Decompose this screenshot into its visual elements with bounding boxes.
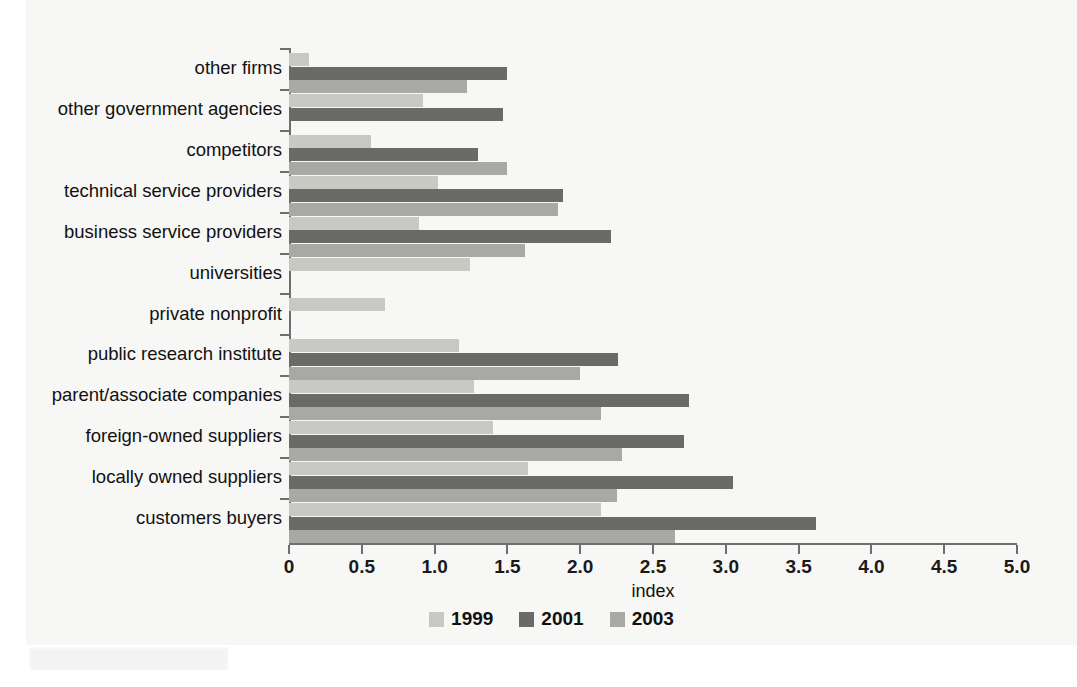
legend-item: 2003 xyxy=(610,608,674,630)
x-tick-label: 0 xyxy=(284,556,295,578)
x-tick-mark xyxy=(288,545,290,554)
legend-swatch-icon xyxy=(429,612,444,627)
bar xyxy=(289,217,419,230)
category-label: other government agencies xyxy=(58,98,282,120)
x-tick-label: 4.0 xyxy=(858,556,884,578)
x-tick-mark xyxy=(725,545,727,554)
bar xyxy=(289,53,309,66)
bar xyxy=(289,148,478,161)
x-tick-label: 2.0 xyxy=(567,556,593,578)
x-tick-mark xyxy=(434,545,436,554)
bar xyxy=(289,394,689,407)
bar xyxy=(289,67,507,80)
x-tick-mark xyxy=(506,545,508,554)
x-tick-label: 3.5 xyxy=(785,556,811,578)
scan-artifact xyxy=(30,648,360,670)
y-tick-mark xyxy=(280,334,290,336)
category-label: business service providers xyxy=(64,221,282,243)
category-label: locally owned suppliers xyxy=(92,466,282,488)
bar-chart: 00.51.01.52.02.53.03.54.04.55.0 other fi… xyxy=(26,0,1077,645)
x-tick-mark xyxy=(798,545,800,554)
legend-label: 2001 xyxy=(541,608,583,630)
bar xyxy=(289,108,503,121)
category-label: customers buyers xyxy=(136,507,282,529)
x-tick-label: 3.0 xyxy=(713,556,739,578)
bar xyxy=(289,503,601,516)
legend-swatch-icon xyxy=(519,612,534,627)
x-tick-label: 0.5 xyxy=(349,556,375,578)
legend-label: 2003 xyxy=(632,608,674,630)
y-tick-mark xyxy=(280,130,290,132)
bar xyxy=(289,421,493,434)
bar xyxy=(289,462,528,475)
x-tick-mark xyxy=(652,545,654,554)
bar xyxy=(289,94,423,107)
x-tick-mark xyxy=(870,545,872,554)
category-label: other firms xyxy=(195,57,282,79)
x-tick-label: 4.5 xyxy=(931,556,957,578)
bar xyxy=(289,135,371,148)
bar xyxy=(289,407,601,420)
bar xyxy=(289,367,580,380)
bar xyxy=(289,162,507,175)
chart-legend: 199920012003 xyxy=(26,608,1077,630)
y-tick-mark xyxy=(280,48,290,50)
bar xyxy=(289,230,611,243)
figure-panel: 00.51.01.52.02.53.03.54.04.55.0 other fi… xyxy=(26,0,1077,645)
bar xyxy=(289,435,684,448)
x-tick-label: 2.5 xyxy=(640,556,666,578)
category-label: public research institute xyxy=(88,343,282,365)
x-tick-mark xyxy=(1016,545,1018,554)
category-label: universities xyxy=(189,262,282,284)
bar xyxy=(289,530,675,543)
x-tick-label: 5.0 xyxy=(1004,556,1030,578)
bar xyxy=(289,476,733,489)
bar xyxy=(289,298,385,311)
category-label: technical service providers xyxy=(64,180,282,202)
bar xyxy=(289,380,474,393)
x-tick-label: 1.0 xyxy=(421,556,447,578)
legend-swatch-icon xyxy=(610,612,625,627)
y-tick-mark xyxy=(280,293,290,295)
legend-label: 1999 xyxy=(451,608,493,630)
x-axis-title: index xyxy=(289,581,1017,602)
bar xyxy=(289,489,617,502)
bar xyxy=(289,189,563,202)
bar xyxy=(289,176,438,189)
bar xyxy=(289,517,816,530)
bar xyxy=(289,203,558,216)
x-tick-label: 1.5 xyxy=(494,556,520,578)
legend-item: 1999 xyxy=(429,608,493,630)
bar xyxy=(289,258,470,271)
legend-item: 2001 xyxy=(519,608,583,630)
bar xyxy=(289,353,618,366)
x-tick-mark xyxy=(943,545,945,554)
bar xyxy=(289,244,525,257)
bar xyxy=(289,448,622,461)
category-label: competitors xyxy=(186,139,282,161)
category-label: foreign-owned suppliers xyxy=(86,425,282,447)
bar xyxy=(289,80,467,93)
x-tick-mark xyxy=(579,545,581,554)
category-label: parent/associate companies xyxy=(52,384,282,406)
category-label: private nonprofit xyxy=(149,303,282,325)
x-tick-mark xyxy=(361,545,363,554)
bar xyxy=(289,339,459,352)
